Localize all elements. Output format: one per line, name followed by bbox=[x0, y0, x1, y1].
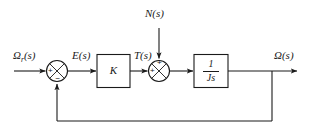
error-signal-label: E(s) bbox=[72, 50, 90, 61]
diagram-lines bbox=[0, 0, 311, 133]
torque-signal-label: T(s) bbox=[134, 50, 152, 61]
plant-denominator: Js bbox=[194, 73, 228, 84]
disturbance-input-label: N(s) bbox=[145, 8, 164, 19]
output-label: Ω(s) bbox=[274, 50, 294, 61]
plant-block-transfer-function: 1 Js bbox=[194, 59, 228, 83]
block-diagram-canvas: Ωr(s) E(s) T(s) N(s) Ω(s) + − + + K 1 Js bbox=[0, 0, 311, 133]
disturbance-junction-plus-left-sign: + bbox=[150, 67, 155, 75]
error-junction-plus-sign: + bbox=[48, 67, 53, 75]
gain-block-label: K bbox=[97, 65, 130, 76]
plant-numerator: 1 bbox=[194, 59, 228, 70]
reference-input-label: Ωr(s) bbox=[13, 50, 36, 64]
error-junction-minus-sign: − bbox=[56, 75, 61, 83]
disturbance-junction-plus-top-sign: + bbox=[157, 59, 162, 67]
